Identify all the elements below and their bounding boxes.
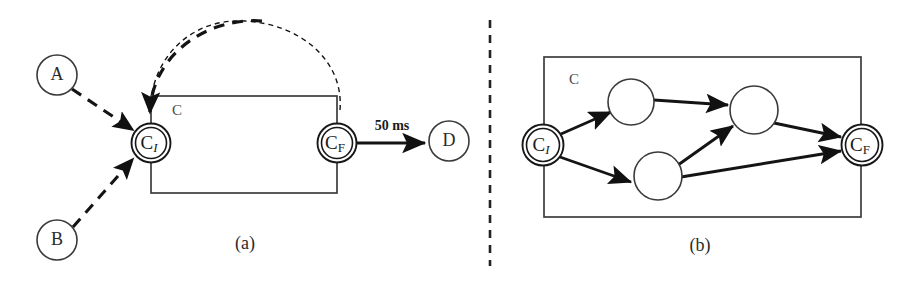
panel-a-node-a-label: A: [51, 64, 64, 84]
panel-b-edge-n3-to-n2: [678, 126, 733, 165]
panel-b-container-box: [544, 57, 861, 217]
panel-a-container-label: C: [172, 102, 182, 118]
panel-a-edge-label-50ms: 50 ms: [375, 118, 410, 133]
panel-b-edge-ci-to-n1: [561, 112, 611, 134]
panel-a-node-b: B: [37, 220, 77, 260]
diagram-canvas: C 50 ms A B CI CF: [0, 0, 920, 285]
figure-container: C 50 ms A B CI CF: [0, 0, 920, 285]
panel-a-edge-a-to-ci: [72, 89, 133, 130]
panel-a-node-ci: CI: [132, 124, 171, 163]
panel-b-node-n1: [608, 79, 654, 125]
panel-a-node-b-label: B: [51, 229, 63, 249]
panel-b-node-cf: CF: [842, 125, 883, 166]
panel-a-node-a: A: [37, 55, 77, 95]
panel-b-node-ci: CI: [523, 125, 564, 166]
panel-a-node-cf: CF: [318, 124, 357, 163]
panel-b-container-label: C: [569, 71, 579, 87]
panel-b-edge-n2-to-cf: [774, 123, 841, 137]
panel-a-arc-cf-to-ci-thick: [150, 21, 262, 112]
panel-b-caption: (b): [690, 235, 711, 256]
panel-a-caption: (a): [235, 233, 255, 254]
panel-b-edge-n3-to-cf: [681, 151, 841, 177]
panel-b-edge-n1-to-n2: [654, 100, 728, 105]
panel-a-edge-b-to-ci: [73, 159, 133, 227]
panel-a-node-d: D: [429, 121, 469, 161]
panel-b-node-n2: [730, 86, 778, 134]
panel-b-node-n3: [634, 152, 682, 200]
panel-b-edge-ci-to-n3: [560, 157, 631, 182]
panel-a-node-d-label: D: [443, 130, 456, 150]
